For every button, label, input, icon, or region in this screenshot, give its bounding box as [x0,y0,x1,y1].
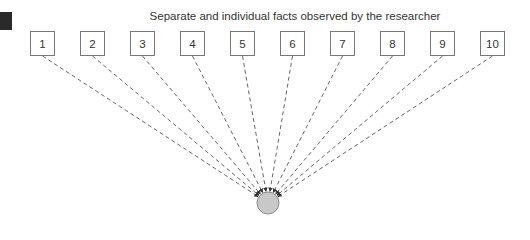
fact-box: 9 [430,31,455,56]
connector-arrow [143,56,261,194]
observation-target-circle [257,192,279,214]
fact-box: 7 [330,31,355,56]
connector-arrow [243,56,266,191]
fact-box: 10 [480,31,505,56]
connector-arrow [277,56,442,195]
fact-box: 2 [80,31,105,56]
fact-box: 4 [180,31,205,56]
connector-arrow [193,56,263,192]
fact-box: 3 [130,31,155,56]
connector-arrow [278,56,492,196]
fact-box: 5 [230,31,255,56]
connector-arrow [43,56,258,196]
connector-arrow [93,56,259,195]
connector-arrow [273,56,342,192]
fact-box: 6 [280,31,305,56]
fact-box: 8 [380,31,405,56]
connector-arrow [276,56,393,194]
fact-box: 1 [30,31,55,56]
connector-arrow [270,56,293,191]
